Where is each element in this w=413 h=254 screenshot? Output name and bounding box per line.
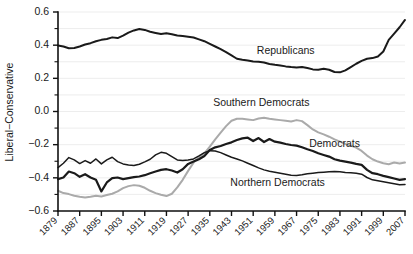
x-tick-label: 1943 <box>210 215 233 238</box>
chart-svg: 0.60.40.20.0−0.2−0.4−0.6 187918871895190… <box>0 0 413 254</box>
x-tick-label: 1919 <box>145 215 168 238</box>
x-tick-label: 1999 <box>362 215 385 238</box>
y-tick-label: 0.2 <box>34 71 49 83</box>
x-tick-label: 1991 <box>340 215 363 238</box>
x-tick-label: 1887 <box>58 215 81 238</box>
series-label-southern-democrats: Southern Democrats <box>213 96 309 108</box>
x-tick-label: 1951 <box>232 215 255 238</box>
series-lines <box>58 20 405 197</box>
liberal-conservative-chart: 0.60.40.20.0−0.2−0.4−0.6 187918871895190… <box>0 0 413 254</box>
y-tick-label: −0.6 <box>28 204 49 216</box>
y-tick-label: −0.4 <box>28 171 49 183</box>
x-tick-label: 1975 <box>297 215 320 238</box>
x-tick-label: 2007 <box>384 215 407 238</box>
y-tick-label: 0.4 <box>34 38 49 50</box>
x-tick-label: 1959 <box>254 215 277 238</box>
x-tick-label: 1895 <box>80 215 103 238</box>
x-tick-label: 1879 <box>37 215 60 238</box>
x-tick-label: 1911 <box>124 215 146 237</box>
y-tick-label: 0.0 <box>34 104 49 116</box>
y-axis-tick-labels: 0.60.40.20.0−0.2−0.4−0.6 <box>28 5 49 216</box>
y-tick-label: 0.6 <box>34 5 49 17</box>
y-axis-title: Liberal−Conservative <box>3 62 15 161</box>
series-label-democrats: Democrats <box>309 137 360 149</box>
series-line-republicans <box>58 20 405 72</box>
x-tick-label: 1903 <box>102 215 125 238</box>
x-tick-label: 1983 <box>319 215 342 238</box>
x-tick-label: 1935 <box>188 215 211 238</box>
x-tick-label: 1927 <box>167 215 190 238</box>
series-label-northern-democrats: Northern Democrats <box>230 176 325 188</box>
y-tick-label: −0.2 <box>28 137 49 149</box>
x-tick-label: 1967 <box>275 215 298 238</box>
x-axis-tick-labels: 1879188718951903191119191927193519431951… <box>37 215 407 238</box>
series-label-republicans: Republicans <box>257 44 315 56</box>
